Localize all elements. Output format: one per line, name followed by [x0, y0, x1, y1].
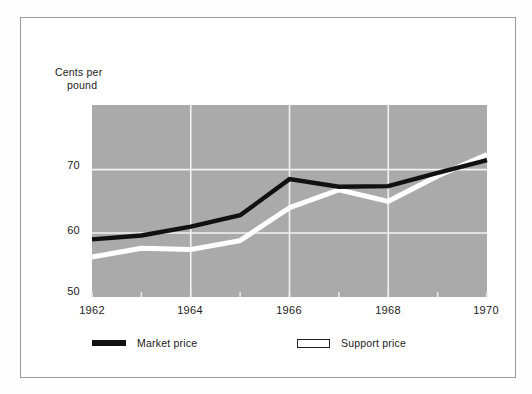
y-tick-label-50: 50	[52, 285, 80, 297]
x-tick-label-1966: 1966	[266, 304, 312, 316]
figure-container: Cents per pound 70 60 50 1962 1964 1966 …	[0, 0, 532, 394]
x-tick-label-1970: 1970	[463, 304, 509, 316]
chart-legend: Market price Support price	[92, 333, 432, 355]
legend-item-support-price: Support price	[297, 333, 406, 353]
legend-swatch-market-line-icon	[92, 340, 126, 346]
y-tick-label-60: 60	[52, 224, 80, 236]
y-axis-title-line2: pound	[55, 79, 102, 92]
x-tick-label-1968: 1968	[365, 304, 411, 316]
x-tick-label-1962: 1962	[69, 304, 115, 316]
y-tick-label-70: 70	[52, 159, 80, 171]
legend-swatch-support-bar-icon	[297, 339, 330, 348]
legend-item-market-price: Market price	[92, 333, 197, 353]
x-tick-label-1964: 1964	[167, 304, 213, 316]
legend-label-support-price: Support price	[341, 337, 406, 349]
legend-label-market-price: Market price	[137, 337, 197, 349]
y-axis-title: Cents per pound	[55, 66, 102, 92]
y-axis-title-line1: Cents per	[55, 66, 102, 78]
